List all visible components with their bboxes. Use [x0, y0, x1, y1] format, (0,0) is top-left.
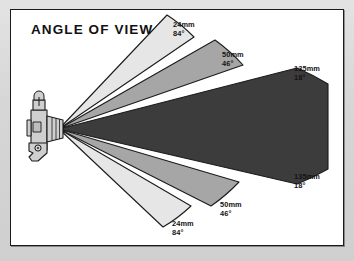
illustration-panel: ANGLE OF VIEW 24mm 84° 50mm 46° 135mm 18… [10, 9, 344, 246]
label-50mm-top-name: 50mm [222, 50, 244, 59]
camera-body-panel [33, 122, 41, 132]
angle-of-view-figure: ANGLE OF VIEW 24mm 84° 50mm 46° 135mm 18… [0, 0, 354, 261]
label-135mm-bottom-angle: 18° [294, 181, 320, 190]
camera-dial-center [37, 147, 39, 149]
label-135mm-top: 135mm 18° [294, 64, 320, 83]
camera-side-view-icon [27, 91, 63, 161]
label-50mm-top: 50mm 46° [222, 50, 244, 69]
label-24mm-bottom: 24mm 84° [172, 219, 194, 238]
camera-strap-lug [27, 120, 31, 136]
angle-of-view-diagram [11, 10, 344, 246]
camera-lens-barrel [47, 116, 63, 142]
label-135mm-top-angle: 18° [294, 73, 320, 82]
label-24mm-bottom-name: 24mm [172, 219, 194, 228]
label-50mm-top-angle: 46° [222, 59, 244, 68]
label-24mm-top-name: 24mm [173, 20, 195, 29]
label-135mm-bottom: 135mm 18° [294, 172, 320, 191]
page-title: ANGLE OF VIEW [31, 22, 153, 37]
label-50mm-bottom-angle: 46° [220, 209, 242, 218]
label-135mm-top-name: 135mm [294, 64, 320, 73]
label-50mm-bottom-name: 50mm [220, 200, 242, 209]
label-24mm-top-angle: 84° [173, 29, 195, 38]
label-50mm-bottom: 50mm 46° [220, 200, 242, 219]
label-135mm-bottom-name: 135mm [294, 172, 320, 181]
label-24mm-top: 24mm 84° [173, 20, 195, 39]
label-24mm-bottom-angle: 84° [172, 228, 194, 237]
